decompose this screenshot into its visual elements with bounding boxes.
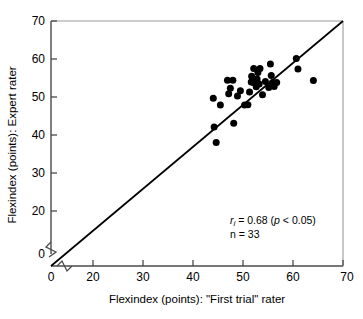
y-tick-labels: 70 60 50 40 30 20 0 [32, 14, 46, 261]
data-point [256, 81, 263, 88]
x-tick-label-70: 70 [340, 270, 354, 284]
x-tick-labels: 0 20 30 40 50 60 70 [48, 270, 354, 284]
data-point [267, 61, 274, 68]
data-point [310, 77, 317, 84]
x-axis-title: Flexindex (points): "First trial" rater [109, 293, 285, 305]
data-point [230, 120, 237, 127]
x-tick-label-20: 20 [86, 270, 100, 284]
y-tick-label-20: 20 [32, 204, 46, 218]
data-point [246, 89, 253, 96]
y-tick-label-60: 60 [32, 52, 46, 66]
y-tick-label-70: 70 [32, 14, 46, 28]
data-point [237, 87, 244, 94]
plot-canvas: 70 60 50 40 30 20 0 0 20 30 40 50 60 70 … [0, 0, 363, 319]
x-tick-label-40: 40 [186, 270, 200, 284]
y-axis-title: Flexindex (points): Expert rater [6, 66, 18, 223]
data-point [244, 101, 251, 108]
statistics-annotation: ri = 0.68 (p < 0.05) n = 33 [230, 214, 316, 240]
correlation-annotation: ri = 0.68 (p < 0.05) [230, 214, 316, 228]
data-point [211, 124, 218, 131]
data-points-layer [210, 55, 317, 146]
data-point [217, 102, 224, 109]
y-tick-label-40: 40 [32, 128, 46, 142]
data-point [273, 79, 280, 86]
data-point [213, 139, 220, 146]
y-axis-ticks [51, 21, 57, 211]
x-axis-ticks [93, 260, 343, 266]
data-point [256, 65, 263, 72]
data-point [294, 65, 301, 72]
x-tick-label-0: 0 [48, 270, 55, 284]
data-point [227, 85, 234, 92]
x-tick-label-50: 50 [236, 270, 250, 284]
y-tick-label-0: 0 [38, 247, 45, 261]
x-tick-label-60: 60 [286, 270, 300, 284]
scatter-plot-figure: 70 60 50 40 30 20 0 0 20 30 40 50 60 70 … [0, 0, 363, 319]
data-point [293, 55, 300, 62]
r-value-text: = 0.68 ( [235, 214, 274, 226]
data-point [259, 91, 266, 98]
x-tick-label-30: 30 [136, 270, 150, 284]
data-point [229, 77, 236, 84]
y-tick-label-30: 30 [32, 166, 46, 180]
y-tick-label-50: 50 [32, 90, 46, 104]
sample-size-annotation: n = 33 [230, 228, 260, 240]
data-point [268, 72, 275, 79]
data-point [210, 95, 217, 102]
p-value-text: < 0.05) [280, 214, 316, 226]
data-point [262, 78, 269, 85]
